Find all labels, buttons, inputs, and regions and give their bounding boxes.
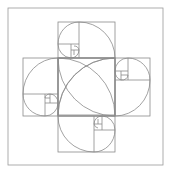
diagram-svg [0, 0, 170, 169]
background [0, 0, 170, 169]
fibonacci-pinwheel-diagram [0, 0, 170, 169]
